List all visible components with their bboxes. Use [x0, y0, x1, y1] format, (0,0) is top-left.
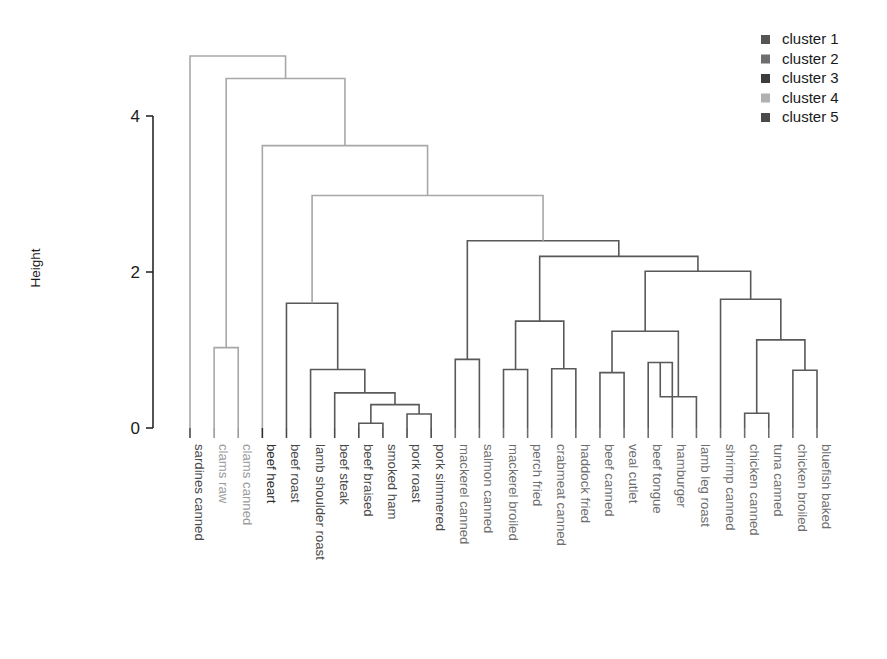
leaf-label-22: shrimp canned	[723, 444, 738, 531]
link-m16	[745, 413, 769, 428]
legend-label-1: cluster 1	[782, 30, 839, 47]
legend-label-5: cluster 5	[782, 108, 839, 125]
legend-swatch-1	[761, 35, 770, 44]
leaf-stems	[190, 428, 817, 438]
leaf-label-23: chicken canned	[747, 444, 762, 536]
link-m7	[286, 303, 337, 428]
leaf-label-4: beef roast	[288, 444, 303, 503]
link-m12	[600, 373, 624, 428]
legend-swatch-3	[761, 74, 770, 83]
leaf-label-7: beef braised	[361, 444, 376, 517]
y-axis-title: Height	[28, 248, 43, 287]
leaf-label-14: perch fried	[530, 444, 545, 506]
y-tick-label-2: 2	[131, 263, 140, 282]
dendrogram-canvas: 420Height sardines cannedclams rawclams …	[0, 0, 887, 659]
leaf-label-10: pork simmered	[433, 444, 448, 531]
cluster-legend: cluster 1cluster 2cluster 3cluster 4clus…	[761, 30, 839, 125]
y-tick-label-0: 0	[131, 419, 140, 438]
link-m6	[311, 370, 365, 429]
legend-label-3: cluster 3	[782, 69, 839, 86]
link-m2	[359, 423, 383, 428]
leaf-label-9: pork roast	[409, 444, 424, 503]
leaf-label-6: beef steak	[337, 444, 352, 505]
link-m3	[407, 414, 431, 428]
leaf-label-18: veal cutlet	[626, 444, 641, 504]
y-axis: 420Height	[28, 107, 153, 438]
leaf-label-5: lamb shoulder roast	[313, 444, 328, 560]
leaf-label-24: tuna canned	[771, 444, 786, 517]
leaf-label-19: beef tongue	[650, 444, 665, 514]
leaf-label-21: lamb leg roast	[698, 444, 713, 527]
leaf-label-2: clams canned	[240, 444, 255, 525]
leaf-label-8: smoked ham	[385, 444, 400, 520]
leaf-label-25: chicken broiled	[795, 444, 810, 532]
leaf-label-26: bluefish baked	[819, 444, 834, 529]
leaf-label-0: sardines canned	[192, 444, 207, 541]
legend-label-4: cluster 4	[782, 89, 839, 106]
dendrogram-figure: 420Height sardines cannedclams rawclams …	[0, 0, 887, 659]
legend-label-2: cluster 2	[782, 50, 839, 67]
link-m25	[226, 79, 345, 348]
leaf-label-1: clams raw	[216, 444, 231, 504]
link-m21	[540, 256, 698, 321]
leaf-label-3: beef heart	[264, 444, 279, 504]
link-m1	[214, 348, 238, 428]
link-m19	[721, 299, 781, 428]
leaf-label-20: hamburger	[674, 444, 689, 508]
legend-swatch-2	[761, 55, 770, 64]
link-m20	[645, 271, 751, 331]
legend-swatch-5	[761, 113, 770, 122]
link-m10	[552, 369, 576, 428]
y-tick-label-4: 4	[131, 107, 140, 126]
link-m17	[793, 370, 817, 428]
legend-swatch-4	[761, 94, 770, 103]
leaf-label-16: haddock fried	[578, 444, 593, 523]
link-m15	[612, 331, 678, 397]
link-m18	[757, 340, 805, 413]
leaf-label-15: crabmeat canned	[554, 444, 569, 546]
leaf-label-17: beef canned	[602, 444, 617, 517]
leaf-label-11: mackerel canned	[457, 444, 472, 544]
leaf-label-13: mackerel broiled	[506, 444, 521, 541]
link-m8	[455, 359, 479, 428]
link-m23	[312, 196, 543, 304]
leaf-label-12: salmon canned	[481, 444, 496, 533]
leaf-labels: sardines cannedclams rawclams cannedbeef…	[192, 444, 834, 560]
link-m22	[467, 241, 618, 360]
dendrogram-links	[190, 56, 817, 428]
link-m11	[516, 321, 564, 369]
link-m9	[504, 370, 528, 429]
